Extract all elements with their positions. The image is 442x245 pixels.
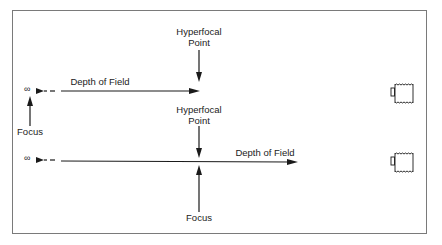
bottom-focus-label: Focus	[179, 212, 219, 223]
top-depth-of-field-label: Depth of Field	[60, 76, 140, 87]
bottom-hyperfocal-label-line1: Hyperfocal	[169, 104, 229, 115]
top-camera-icon	[391, 84, 413, 103]
top-hyperfocal-label-line2: Point	[169, 37, 229, 48]
top-infinity-arrow	[36, 88, 55, 94]
bottom-hyperfocal-label: Hyperfocal Point	[169, 104, 229, 126]
bottom-hyperfocal-label-line2: Point	[169, 115, 229, 126]
bottom-infinity-arrow	[36, 157, 55, 163]
top-infinity-symbol: ∞	[24, 84, 30, 94]
top-hyperfocal-label-line1: Hyperfocal	[169, 26, 229, 37]
bottom-hyperfocal-arrow	[196, 126, 202, 158]
bottom-depth-of-field-arrow	[61, 159, 298, 165]
bottom-depth-of-field-label: Depth of Field	[225, 147, 305, 158]
bottom-focus-arrow	[196, 165, 202, 212]
top-hyperfocal-arrow	[196, 50, 202, 82]
top-depth-of-field-arrow	[61, 88, 200, 94]
top-hyperfocal-label: Hyperfocal Point	[169, 26, 229, 48]
bottom-infinity-symbol: ∞	[24, 153, 30, 163]
top-focus-label: Focus	[10, 126, 50, 137]
top-focus-arrow	[27, 96, 33, 126]
bottom-camera-icon	[391, 153, 413, 172]
